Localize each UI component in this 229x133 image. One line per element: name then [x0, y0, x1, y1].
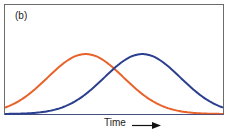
- chart-plot: [0, 0, 229, 133]
- x-axis-label: Time: [104, 117, 126, 128]
- panel-label: (b): [15, 10, 27, 21]
- time-arrow-icon: [132, 122, 161, 129]
- plot-frame: [5, 5, 224, 115]
